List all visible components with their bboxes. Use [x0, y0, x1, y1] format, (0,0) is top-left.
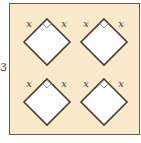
side-length-label: x — [118, 78, 124, 89]
side-length-label: x — [26, 18, 32, 29]
side-length-label: x — [118, 18, 124, 29]
side-length-label: x — [26, 78, 32, 89]
side-length-label: x — [61, 18, 67, 29]
side-length-label: x — [83, 78, 89, 89]
side-length-label: x — [83, 18, 89, 29]
side-length-label: x — [61, 78, 67, 89]
diagram-canvas: xxxxxxxx — [0, 0, 141, 143]
